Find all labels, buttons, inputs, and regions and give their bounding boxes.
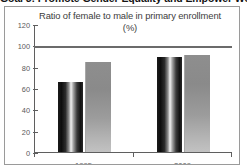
y-tick-60: 60 xyxy=(34,89,39,90)
y-tick-label: 40 xyxy=(22,106,30,115)
y-tick-label: 120 xyxy=(18,21,30,30)
y-tick-mark xyxy=(33,89,38,90)
reference-line-100 xyxy=(34,46,232,47)
y-tick-label: 60 xyxy=(22,85,30,94)
x-tick-mark xyxy=(231,153,232,157)
bar-2009-series-2 xyxy=(184,55,210,152)
y-tick-80: 80 xyxy=(34,68,39,69)
bar-1995-series-1 xyxy=(58,82,83,152)
y-tick-label: 100 xyxy=(18,42,30,51)
y-tick-120: 120 xyxy=(34,25,39,26)
y-tick-label: 20 xyxy=(22,127,30,136)
slide-header: Goal 3: Promote Gender Equality and Empo… xyxy=(0,0,247,5)
plot-area: 020406080100120 19952009 xyxy=(34,25,232,153)
y-tick-mark xyxy=(33,132,38,133)
bar-1995-series-2 xyxy=(85,62,111,152)
x-tick-mark xyxy=(133,153,134,157)
y-tick-40: 40 xyxy=(34,110,39,111)
y-tick-label: 0 xyxy=(26,149,30,158)
y-tick-mark xyxy=(33,68,38,69)
y-tick-label: 80 xyxy=(22,63,30,72)
chart-title-line1: Ratio of female to male in primary enrol… xyxy=(39,10,221,21)
x-axis-label-2009: 2009 xyxy=(174,161,191,165)
chart-panel: Ratio of female to male in primary enrol… xyxy=(4,6,240,165)
x-tick-mark-origin xyxy=(34,153,35,157)
y-tick-mark xyxy=(33,25,38,26)
x-axis-label-1995: 1995 xyxy=(75,161,92,165)
slide-header-text: Goal 3: Promote Gender Equality and Empo… xyxy=(0,0,247,4)
bar-2009-series-1 xyxy=(157,57,182,152)
y-tick-mark xyxy=(33,110,38,111)
y-tick-20: 20 xyxy=(34,132,39,133)
